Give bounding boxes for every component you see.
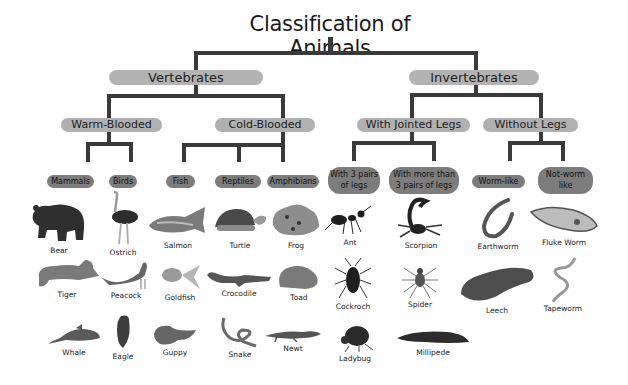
- spider-icon: [400, 260, 440, 298]
- node-cold-blooded: Cold-Blooded: [215, 118, 315, 132]
- animal-leech: Leech: [455, 262, 539, 315]
- animal-label-spider: Spider: [398, 300, 442, 309]
- animal-label-toad: Toad: [274, 293, 324, 302]
- animal-label-turtle: Turtle: [210, 241, 270, 250]
- peacock-icon: [99, 259, 153, 289]
- newt-icon: [263, 326, 323, 342]
- animal-ladybug: Ladybug: [333, 322, 377, 363]
- whale-icon: [46, 322, 102, 346]
- animal-whale: Whale: [44, 322, 104, 357]
- connector-warm-stem: [107, 94, 111, 120]
- animal-newt: Newt: [262, 326, 324, 353]
- node-three-pairs-legs: With 3 pairs of legs: [328, 167, 380, 194]
- animal-label-millipede: Millipede: [393, 348, 473, 357]
- animal-frog: Frog: [268, 199, 324, 250]
- connector-invert-bar: [410, 93, 543, 97]
- node-without-legs: Without Legs: [483, 118, 578, 132]
- node-vertebrates: Vertebrates: [109, 70, 263, 85]
- animal-salmon: Salmon: [146, 203, 210, 250]
- animal-label-snake: Snake: [218, 350, 262, 359]
- animal-label-eagle: Eagle: [108, 352, 138, 361]
- eagle-icon: [111, 314, 135, 350]
- animal-eagle: Eagle: [108, 314, 138, 361]
- scorpion-icon: [396, 195, 446, 239]
- animal-millipede: Millipede: [393, 330, 473, 357]
- ant-icon: [323, 204, 377, 236]
- animal-label-frog: Frog: [268, 241, 324, 250]
- node-amphibians: Amphibians: [267, 175, 319, 188]
- animal-label-leech: Leech: [455, 306, 539, 315]
- earthworm-icon: [478, 198, 518, 240]
- tiger-icon: [35, 258, 99, 288]
- leech-icon: [457, 262, 537, 304]
- ostrich-icon: [105, 190, 141, 246]
- goldfish-icon: [158, 263, 202, 291]
- connector-nolegs-bar: [508, 141, 565, 145]
- connector-birds: [129, 142, 133, 162]
- animal-label-whale: Whale: [44, 348, 104, 357]
- animal-toad: Toad: [274, 263, 324, 302]
- node-not-worm-like: Not-worm like: [538, 167, 593, 194]
- connector-fish: [182, 143, 186, 162]
- animal-label-crocodile: Crocodile: [204, 289, 274, 298]
- connector-cold-down: [281, 132, 285, 162]
- animal-crocodile: Crocodile: [204, 269, 274, 298]
- node-reptiles: Reptiles: [215, 175, 261, 188]
- connector-nolegs-stem: [539, 93, 543, 120]
- node-more-pairs-line1: With more than: [389, 169, 459, 180]
- animal-label-ladybug: Ladybug: [333, 354, 377, 363]
- animal-label-tiger: Tiger: [34, 290, 100, 299]
- animal-snake: Snake: [218, 316, 262, 359]
- connector-wormlike: [508, 141, 512, 161]
- connector-more-pairs: [432, 141, 436, 161]
- ladybug-icon: [335, 322, 375, 352]
- connector-jointed-stem: [410, 93, 414, 120]
- animal-label-tapeworm: Tapeworm: [540, 304, 586, 313]
- node-birds: Birds: [109, 175, 137, 188]
- node-more-pairs-legs: With more than 3 pairs of legs: [389, 167, 459, 194]
- animal-bear: Bear: [28, 200, 90, 255]
- connector-vert-bar: [107, 94, 285, 98]
- node-warm-blooded: Warm-Blooded: [61, 118, 162, 132]
- connector-cold-stem: [281, 94, 285, 120]
- animal-spider: Spider: [398, 260, 442, 309]
- node-not-worm-line1: Not-worm: [538, 169, 593, 180]
- fluke-worm-icon: [529, 204, 599, 236]
- animal-label-fluke-worm: Fluke Worm: [528, 238, 600, 247]
- frog-icon: [269, 199, 323, 239]
- animal-label-peacock: Peacock: [98, 291, 154, 300]
- crocodile-icon: [205, 269, 273, 287]
- snake-icon: [220, 316, 260, 348]
- connector-reptiles: [237, 143, 241, 162]
- animal-label-bear: Bear: [28, 246, 90, 255]
- animal-label-earthworm: Earthworm: [470, 242, 526, 251]
- animal-tiger: Tiger: [34, 258, 100, 299]
- node-more-pairs-line2: 3 pairs of legs: [389, 180, 459, 191]
- node-three-pairs-line2: of legs: [328, 180, 380, 191]
- animal-label-goldfish: Goldfish: [155, 293, 205, 302]
- connector-notworm: [561, 141, 565, 161]
- animal-label-newt: Newt: [262, 344, 324, 353]
- animal-label-guppy: Guppy: [150, 348, 200, 357]
- animal-turtle: Turtle: [210, 203, 270, 250]
- connector-root-bar: [194, 51, 478, 55]
- animal-cockroach: Cockroch: [330, 258, 376, 311]
- toad-icon: [276, 263, 322, 291]
- millipede-icon: [395, 330, 471, 346]
- connector-cold-bar: [182, 143, 285, 147]
- guppy-icon: [152, 322, 198, 346]
- connector-jointed-bar: [352, 141, 436, 145]
- animal-guppy: Guppy: [150, 322, 200, 357]
- animal-label-salmon: Salmon: [146, 241, 210, 250]
- node-three-pairs-line1: With 3 pairs: [328, 169, 380, 180]
- node-not-worm-line2: like: [538, 180, 593, 191]
- animal-tapeworm: Tapeworm: [540, 256, 586, 313]
- animal-label-ant: Ant: [322, 238, 378, 247]
- bear-icon: [29, 200, 89, 244]
- animal-label-cockroach: Cockroch: [330, 302, 376, 311]
- salmon-icon: [147, 203, 209, 239]
- animal-label-ostrich: Ostrich: [103, 248, 143, 257]
- connector-mammals: [86, 142, 90, 162]
- cockroach-icon: [333, 258, 373, 300]
- animal-scorpion: Scorpion: [393, 195, 449, 250]
